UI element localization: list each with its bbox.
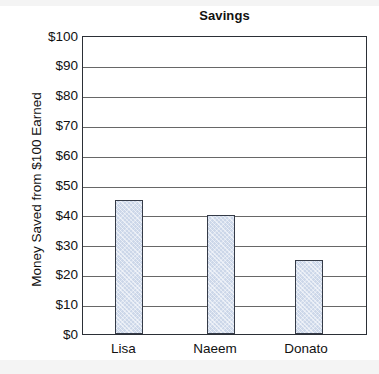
y-tick-label: $90 bbox=[18, 59, 78, 73]
x-tick-label-naeem: Naeem bbox=[176, 341, 254, 356]
bar-naeem bbox=[207, 215, 235, 334]
bar-donato bbox=[295, 260, 323, 334]
y-tick-label: $0 bbox=[18, 328, 78, 342]
gridline bbox=[83, 157, 366, 158]
y-axis-tick-labels: $100 $90 $80 $70 $60 $50 $40 $30 $20 $10… bbox=[14, 36, 78, 335]
gridline bbox=[83, 67, 366, 68]
chart-title: Savings bbox=[82, 8, 367, 23]
scan-artifact-top bbox=[0, 0, 379, 6]
x-tick-label-lisa: Lisa bbox=[86, 341, 161, 356]
gridline bbox=[83, 97, 366, 98]
savings-bar-chart: Savings Money Saved from $100 Earned $10… bbox=[0, 0, 379, 374]
y-tick-label: $40 bbox=[18, 209, 78, 223]
y-tick-label: $50 bbox=[18, 179, 78, 193]
y-tick-label: $80 bbox=[18, 89, 78, 103]
y-tick-label: $20 bbox=[18, 268, 78, 282]
bar-lisa bbox=[115, 200, 143, 334]
gridline bbox=[83, 127, 366, 128]
y-tick-label: $70 bbox=[18, 119, 78, 133]
y-tick-label: $30 bbox=[18, 239, 78, 253]
y-tick-label: $100 bbox=[18, 30, 78, 44]
y-tick-label: $60 bbox=[18, 149, 78, 163]
gridline bbox=[83, 187, 366, 188]
y-tick-label: $10 bbox=[18, 298, 78, 312]
plot-area bbox=[82, 36, 367, 335]
x-tick-label-donato: Donato bbox=[265, 341, 347, 356]
scan-artifact-bottom bbox=[0, 360, 379, 374]
